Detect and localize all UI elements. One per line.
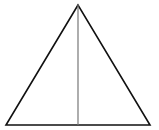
triangle-diagram [0, 0, 159, 130]
